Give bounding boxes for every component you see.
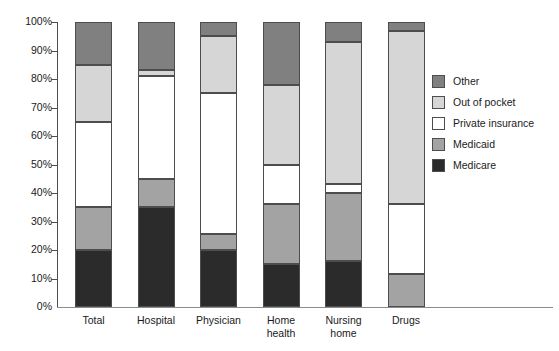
legend-swatch-icon xyxy=(432,75,445,88)
x-axis-label: Drugs xyxy=(362,314,451,327)
bar-segment xyxy=(200,234,237,250)
bar-group: Total xyxy=(75,22,112,307)
y-axis-tick-label: 100% xyxy=(25,15,52,27)
bar-segment xyxy=(138,76,175,179)
bar-group: Drugs xyxy=(388,22,425,307)
bar-stack xyxy=(388,22,425,307)
y-axis-tick-label: 30% xyxy=(31,215,52,227)
legend-item-label: Private insurance xyxy=(453,117,534,130)
bar-stack xyxy=(263,22,300,307)
bar-segment xyxy=(263,204,300,264)
bar-segment xyxy=(263,264,300,307)
y-axis-tick-label: 40% xyxy=(31,186,52,198)
bar-segment xyxy=(75,122,112,208)
bar-stack xyxy=(138,22,175,307)
stacked-bar-chart: 0%10%20%30%40%50%60%70%80%90%100% TotalH… xyxy=(0,0,559,351)
bar-segment xyxy=(75,207,112,250)
bar-segment xyxy=(388,274,425,307)
bar-segment xyxy=(325,184,362,193)
y-axis-tick-label: 10% xyxy=(31,272,52,284)
legend-item-label: Medicare xyxy=(453,159,496,172)
y-axis-tick-label: 0% xyxy=(37,300,52,312)
legend-item-label: Other xyxy=(453,75,479,88)
legend-swatch-icon xyxy=(432,159,445,172)
bar-segment xyxy=(263,22,300,85)
bar-stack xyxy=(75,22,112,307)
bar-segment xyxy=(325,42,362,185)
bar-group: Physician xyxy=(200,22,237,307)
legend-item: Out of pocket xyxy=(432,93,534,112)
y-axis-tick-label: 80% xyxy=(31,72,52,84)
bar-segment xyxy=(325,261,362,307)
bar-segment xyxy=(75,250,112,307)
bar-stack xyxy=(200,22,237,307)
y-axis-tick-label: 50% xyxy=(31,158,52,170)
bar-segment xyxy=(325,22,362,42)
bar-segment xyxy=(325,193,362,261)
y-axis-tick-label: 90% xyxy=(31,44,52,56)
y-axis-tick-label: 70% xyxy=(31,101,52,113)
bar-stack xyxy=(325,22,362,307)
legend-item-label: Out of pocket xyxy=(453,96,515,109)
bar-segment xyxy=(200,36,237,93)
bar-segment xyxy=(138,70,175,76)
bar-segment xyxy=(388,31,425,205)
bar-segment xyxy=(200,250,237,307)
y-axis-tick-label: 20% xyxy=(31,243,52,255)
legend-item: Other xyxy=(432,72,534,91)
bar-segment xyxy=(75,65,112,122)
bar-segment xyxy=(138,207,175,307)
bar-segment xyxy=(200,22,237,36)
bar-group: Nursing home xyxy=(325,22,362,307)
bar-group: Home health xyxy=(263,22,300,307)
chart-legend: OtherOut of pocketPrivate insuranceMedic… xyxy=(432,72,534,177)
bar-segment xyxy=(263,85,300,165)
legend-item: Medicaid xyxy=(432,135,534,154)
y-axis-tick-label: 60% xyxy=(31,129,52,141)
legend-swatch-icon xyxy=(432,117,445,130)
bar-segment xyxy=(75,22,112,65)
bar-segment xyxy=(200,93,237,234)
bar-segment xyxy=(388,204,425,274)
legend-item-label: Medicaid xyxy=(453,138,495,151)
x-axis-line xyxy=(57,307,553,308)
legend-item: Private insurance xyxy=(432,114,534,133)
legend-item: Medicare xyxy=(432,156,534,175)
legend-swatch-icon xyxy=(432,138,445,151)
legend-swatch-icon xyxy=(432,96,445,109)
bar-group: Hospital xyxy=(138,22,175,307)
bar-segment xyxy=(138,22,175,70)
bar-segment xyxy=(138,179,175,208)
bar-segment xyxy=(388,22,425,31)
bar-segment xyxy=(263,165,300,205)
